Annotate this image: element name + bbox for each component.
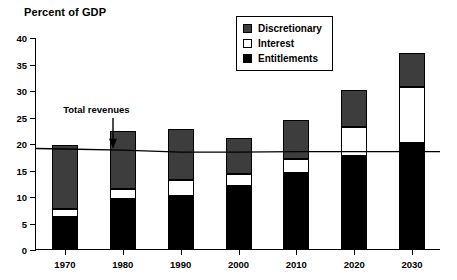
x-axis-label: 1990 xyxy=(170,259,191,270)
y-axis-label: 15 xyxy=(16,165,27,176)
bar-1990 xyxy=(168,37,194,249)
y-tick xyxy=(30,144,36,145)
x-tick xyxy=(123,249,124,255)
y-axis-label: 35 xyxy=(16,59,27,70)
x-axis-label: 2000 xyxy=(228,259,249,270)
y-axis-label: 5 xyxy=(22,218,27,229)
legend-swatch-discretionary xyxy=(243,24,252,33)
y-tick xyxy=(30,38,36,39)
bar-segment-interest-2000 xyxy=(226,174,252,186)
bar-segment-interest-1970 xyxy=(52,209,78,216)
bar-segment-entitlements-2020 xyxy=(341,156,367,249)
bar-segment-discretionary-1990 xyxy=(168,129,194,180)
bar-segment-discretionary-2010 xyxy=(283,120,309,159)
y-tick xyxy=(30,65,36,66)
bar-segment-discretionary-2020 xyxy=(341,90,367,127)
x-tick xyxy=(65,249,66,255)
bar-segment-interest-2010 xyxy=(283,159,309,173)
y-axis-label: 40 xyxy=(16,33,27,44)
y-axis-label: 25 xyxy=(16,112,27,123)
y-tick xyxy=(30,224,36,225)
bar-segment-entitlements-2010 xyxy=(283,173,309,249)
bar-segment-discretionary-1970 xyxy=(52,145,78,210)
legend-item-entitlements: Entitlements xyxy=(243,51,322,66)
bar-segment-interest-1980 xyxy=(110,189,136,199)
x-tick xyxy=(181,249,182,255)
y-tick xyxy=(30,118,36,119)
bar-2020 xyxy=(341,37,367,249)
bar-segment-interest-2030 xyxy=(399,87,425,143)
legend-label-entitlements: Entitlements xyxy=(258,54,318,64)
legend-swatch-entitlements xyxy=(243,54,252,63)
legend-swatch-interest xyxy=(243,39,252,48)
chart-root: Percent of GDP 0510152025303540 19701980… xyxy=(0,0,457,280)
legend: Discretionary Interest Entitlements xyxy=(236,16,333,71)
bar-segment-entitlements-2030 xyxy=(399,143,425,249)
bar-segment-interest-2020 xyxy=(341,127,367,156)
page-title: Percent of GDP xyxy=(24,6,106,18)
bar-segment-entitlements-1970 xyxy=(52,217,78,249)
x-axis-label: 1980 xyxy=(112,259,133,270)
y-tick xyxy=(30,91,36,92)
x-tick xyxy=(239,249,240,255)
legend-label-discretionary: Discretionary xyxy=(258,24,322,34)
bar-segment-entitlements-1980 xyxy=(110,199,136,249)
y-axis-label: 0 xyxy=(22,245,27,256)
legend-label-interest: Interest xyxy=(258,39,294,49)
bar-segment-entitlements-1990 xyxy=(168,196,194,249)
bar-segment-entitlements-2000 xyxy=(226,186,252,249)
bar-1970 xyxy=(52,37,78,249)
x-tick xyxy=(354,249,355,255)
y-tick xyxy=(30,197,36,198)
x-tick xyxy=(412,249,413,255)
bar-segment-discretionary-2000 xyxy=(226,138,252,174)
x-axis-label: 2020 xyxy=(344,259,365,270)
bar-segment-interest-1990 xyxy=(168,180,194,196)
x-axis-label: 2030 xyxy=(401,259,422,270)
legend-item-discretionary: Discretionary xyxy=(243,21,322,36)
annotation-total-revenues: Total revenues xyxy=(63,104,129,115)
bar-2030 xyxy=(399,37,425,249)
y-axis-label: 10 xyxy=(16,192,27,203)
annotation-arrow-icon xyxy=(106,118,120,149)
y-axis-label: 30 xyxy=(16,86,27,97)
x-axis-label: 2010 xyxy=(286,259,307,270)
x-tick xyxy=(296,249,297,255)
y-axis-label: 20 xyxy=(16,139,27,150)
legend-item-interest: Interest xyxy=(243,36,322,51)
bar-segment-discretionary-2030 xyxy=(399,53,425,87)
x-axis-label: 1970 xyxy=(54,259,75,270)
y-tick xyxy=(30,171,36,172)
y-tick xyxy=(30,250,36,251)
